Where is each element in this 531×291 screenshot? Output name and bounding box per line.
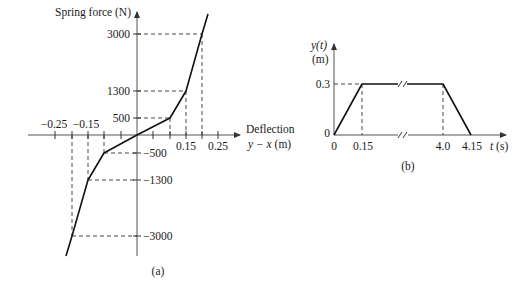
chart-b-xtick-0: 0 bbox=[331, 140, 337, 152]
chart-b-displacement-curve-right bbox=[407, 84, 471, 135]
chart-b-ytick-03: 0.3 bbox=[316, 78, 331, 90]
chart-a-caption: (a) bbox=[152, 265, 165, 278]
chart-b-displacement-curve bbox=[334, 84, 398, 135]
figure-canvas: Spring force (N) 3000 1300 500 −500 −130… bbox=[0, 0, 531, 291]
chart-a-y-label: Spring force (N) bbox=[55, 6, 131, 19]
chart-b-xtick-015: 0.15 bbox=[353, 140, 373, 152]
chart-a-ytick-neg500: −500 bbox=[143, 147, 167, 159]
chart-a-ytick-neg3000: −3000 bbox=[143, 230, 173, 242]
chart-a: Spring force (N) 3000 1300 500 −500 −130… bbox=[28, 6, 295, 278]
chart-b-y-label: y(t) bbox=[310, 39, 327, 52]
chart-a-ytick-1300: 1300 bbox=[107, 85, 130, 97]
chart-b-axis-break bbox=[398, 81, 407, 138]
chart-a-xtick-neg025: −0.25 bbox=[41, 118, 68, 130]
chart-b-caption: (b) bbox=[401, 160, 415, 173]
chart-a-x-label-expr: y − x (m) bbox=[247, 138, 291, 151]
chart-b: y(t) (m) 0.3 0 0 0.15 4.0 4.15 t (s) (b) bbox=[310, 39, 508, 173]
chart-a-ytick-500: 500 bbox=[113, 112, 131, 124]
chart-b-x-label: t (s) bbox=[490, 140, 508, 153]
chart-b-ytick-0: 0 bbox=[324, 127, 330, 139]
chart-a-xtick-015: 0.15 bbox=[176, 140, 196, 152]
chart-a-x-label: Deflection bbox=[246, 123, 295, 135]
chart-a-ytick-neg1300: −1300 bbox=[143, 174, 173, 186]
chart-a-ytick-3000: 3000 bbox=[107, 28, 130, 40]
chart-b-y-unit: (m) bbox=[312, 53, 329, 66]
chart-a-xtick-025: 0.25 bbox=[208, 140, 228, 152]
chart-b-xtick-40: 4.0 bbox=[436, 140, 451, 152]
chart-b-xtick-415: 4.15 bbox=[462, 140, 482, 152]
chart-a-xtick-neg015: −0.15 bbox=[73, 118, 100, 130]
